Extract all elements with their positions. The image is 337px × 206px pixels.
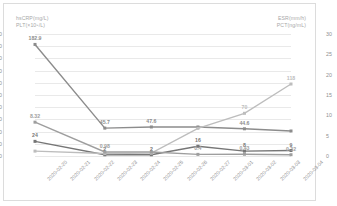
x-tick-label: 2020-03-04	[302, 159, 325, 182]
series-line	[35, 44, 291, 131]
left-tick-label: 60	[0, 116, 2, 122]
series-marker	[34, 140, 37, 143]
x-tick-label: 2020-03-03	[278, 159, 301, 182]
data-point-label: 44.6	[239, 120, 249, 126]
data-point-label: 118	[287, 75, 295, 81]
data-point-label: 0.43	[239, 145, 249, 151]
data-point-label: 0.4	[194, 145, 201, 151]
gridline	[35, 156, 291, 157]
left-tick-label: 0	[0, 153, 2, 159]
right-tick-label: 0	[326, 153, 337, 159]
series-marker	[150, 125, 153, 128]
data-point-label: 0.98	[100, 143, 110, 149]
right-tick-label: 15	[326, 92, 337, 98]
series-marker	[103, 127, 106, 130]
data-point-label: 182.9	[29, 35, 42, 41]
left-tick-label: 160	[0, 55, 2, 61]
left-tick-label: 20	[0, 141, 2, 147]
x-tick-label: 2020-02-27	[209, 159, 232, 182]
x-tick-label: 2020-03-02	[255, 159, 278, 182]
left-tick-label: 120	[0, 80, 2, 86]
data-point-label: 0.32	[286, 146, 296, 152]
data-point-label: 45.7	[100, 119, 110, 125]
left-tick-label: 180	[0, 43, 2, 49]
series-marker	[290, 153, 293, 156]
series-marker	[290, 83, 293, 86]
right-tick-label: 30	[326, 31, 337, 37]
x-tick-label: 2020-03-01	[232, 159, 255, 182]
x-tick-label: 2020-02-21	[69, 159, 92, 182]
left-axis-title-hscrp: hsCRP(mg/L)	[16, 15, 49, 21]
right-tick-label: 10	[326, 112, 337, 118]
series-lines	[35, 34, 291, 156]
left-axis-title-plt: PLT(×10⁹/L)	[16, 22, 45, 28]
data-point-label: 2	[150, 146, 153, 152]
x-tick-label: 2020-02-20	[46, 159, 69, 182]
x-tick-label: 2020-02-24	[139, 159, 162, 182]
series-marker	[243, 127, 246, 130]
right-axis-title-esr: ESR(mm/h)	[278, 15, 306, 21]
data-point-label: 47.6	[146, 118, 156, 124]
series-marker	[34, 150, 37, 153]
series-marker	[34, 43, 37, 46]
left-tick-label: 140	[0, 68, 2, 74]
right-tick-label: 5	[326, 133, 337, 139]
data-point-label: 70	[242, 104, 248, 110]
right-tick-label: 25	[326, 51, 337, 57]
series-marker	[290, 129, 293, 132]
x-tick-label: 2020-02-26	[185, 159, 208, 182]
series-marker	[243, 112, 246, 115]
series-marker	[34, 121, 37, 124]
left-tick-label: 40	[0, 129, 2, 135]
right-tick-label: 20	[326, 72, 337, 78]
right-axis-title-pct: PCT(ng/mL)	[277, 22, 306, 28]
left-tick-label: 200	[0, 31, 2, 37]
left-tick-label: 100	[0, 92, 2, 98]
data-point-label: 24	[32, 132, 38, 138]
series-marker	[196, 153, 199, 156]
data-point-label: 8.32	[30, 113, 40, 119]
x-tick-label: 2020-02-22	[92, 159, 115, 182]
series-line	[35, 84, 291, 154]
series-marker	[243, 153, 246, 156]
left-tick-label: 80	[0, 104, 2, 110]
chart-container: hsCRP(mg/L) PLT(×10⁹/L) ESR(mm/h) PCT(ng…	[3, 3, 316, 201]
x-tick-label: 2020-02-25	[162, 159, 185, 182]
x-tick-label: 2020-02-23	[115, 159, 138, 182]
series-marker	[196, 127, 199, 130]
data-point-label: 16	[195, 137, 201, 143]
plot-area: 020406080100120140160180200 051015202530…	[35, 34, 291, 156]
